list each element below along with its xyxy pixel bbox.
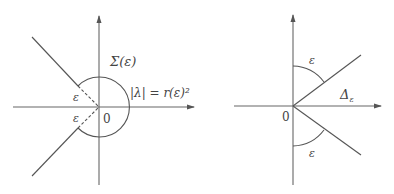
left-diagram: Σ(ε) |λ| = r(ε)² 0 ε ε <box>13 16 194 185</box>
left-lower-ray <box>32 128 78 176</box>
left-epsilon-lower: ε <box>73 112 79 125</box>
right-origin-label: 0 <box>282 110 290 124</box>
left-origin-label: 0 <box>103 112 111 126</box>
right-upper-angle-arc <box>293 66 324 82</box>
left-upper-ray <box>32 37 78 86</box>
left-lower-ray-dashed <box>78 107 99 128</box>
delta-subscript: ε <box>349 95 353 104</box>
right-epsilon-upper: ε <box>309 54 315 67</box>
diagram-canvas: Σ(ε) |λ| = r(ε)² 0 ε ε ε ε Δε 0 <box>0 0 394 194</box>
right-epsilon-lower: ε <box>309 147 315 160</box>
delta-label: Δε <box>339 87 354 104</box>
delta-main: Δ <box>339 87 349 102</box>
left-epsilon-upper: ε <box>73 91 79 104</box>
right-lower-angle-arc <box>293 130 324 146</box>
sigma-label: Σ(ε) <box>109 54 136 69</box>
right-diagram: ε ε Δε 0 <box>234 15 381 185</box>
left-upper-ray-dashed <box>78 86 99 107</box>
right-lower-ray <box>293 106 361 155</box>
circle-radius-label: |λ| = r(ε)² <box>130 86 190 100</box>
